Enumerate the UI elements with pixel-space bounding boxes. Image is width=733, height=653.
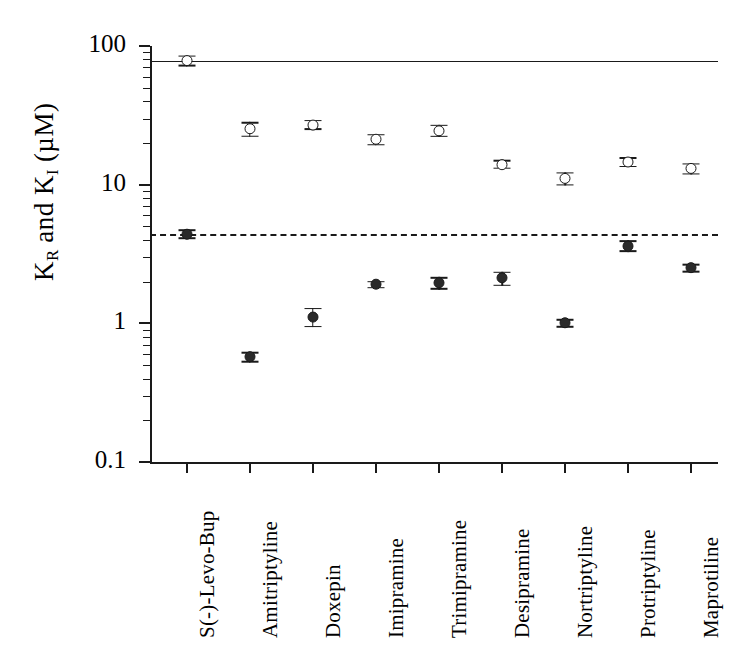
data-point-kr xyxy=(430,125,448,137)
error-bar-cap-upper xyxy=(304,308,321,310)
y-tick-minor xyxy=(143,52,150,53)
y-tick-minor xyxy=(143,67,150,68)
y-tick-label: 0.1 xyxy=(95,446,126,474)
open-circle-marker xyxy=(181,55,192,66)
y-tick-minor xyxy=(143,345,150,346)
y-tick-minor xyxy=(143,119,150,120)
y-tick-minor xyxy=(143,77,150,78)
plot-area: 0.1110100 xyxy=(150,46,718,462)
open-circle-marker xyxy=(560,173,571,184)
data-point-kr xyxy=(178,56,196,67)
x-axis-line xyxy=(150,462,718,464)
y-tick-minor xyxy=(143,379,150,380)
data-point-ki xyxy=(241,352,259,363)
data-point-kr xyxy=(241,122,259,137)
y-tick-label: 10 xyxy=(101,169,126,197)
figure-root: KR and KI (µM) 0.1110100 S(-)-Levo-BupAm… xyxy=(0,0,733,653)
x-axis-label-6: Nortriptyline xyxy=(573,526,598,638)
data-point-ki xyxy=(430,277,448,289)
open-circle-marker xyxy=(623,157,634,168)
y-tick-minor xyxy=(143,257,150,258)
data-point-ki xyxy=(682,264,700,273)
x-tick xyxy=(375,462,377,473)
error-bar-cap-lower xyxy=(241,135,258,137)
y-tick-minor xyxy=(143,191,150,192)
open-circle-marker xyxy=(686,163,697,174)
y-tick-minor xyxy=(143,337,150,338)
y-tick-major: 10 xyxy=(139,184,150,186)
data-point-kr xyxy=(556,172,574,185)
y-axis-label-sub-i: I xyxy=(43,169,62,175)
filled-circle-marker xyxy=(560,318,571,329)
y-axis-label-units: (µM) xyxy=(29,103,59,170)
data-point-kr xyxy=(493,160,511,169)
error-bar-cap-lower xyxy=(494,284,511,286)
y-tick-minor xyxy=(143,198,150,199)
y-axis-label-k1: K xyxy=(29,261,59,281)
open-circle-marker xyxy=(434,125,445,136)
data-point-kr xyxy=(682,163,700,174)
y-tick-minor xyxy=(143,330,150,331)
y-tick-minor xyxy=(143,226,150,227)
data-point-kr xyxy=(304,120,322,130)
x-tick xyxy=(249,462,251,473)
y-tick-minor xyxy=(143,365,150,366)
data-point-ki xyxy=(178,229,196,239)
y-tick-minor xyxy=(143,354,150,355)
solid-reference-line xyxy=(150,61,718,62)
x-axis-label-4: Trimipramine xyxy=(447,520,472,638)
data-point-ki xyxy=(304,308,322,328)
y-axis-label-k2: K xyxy=(29,175,59,195)
y-tick-major: 1 xyxy=(139,322,150,324)
x-tick xyxy=(438,462,440,473)
y-tick-minor xyxy=(143,88,150,89)
x-tick xyxy=(627,462,629,473)
y-tick-major: 100 xyxy=(139,45,150,47)
y-axis-label-and: and xyxy=(29,195,59,250)
data-point-kr xyxy=(367,134,385,146)
x-tick xyxy=(690,462,692,473)
x-axis-label-8: Maprotiline xyxy=(699,537,724,638)
filled-circle-marker xyxy=(686,262,697,273)
x-axis-label-7: Protriptyline xyxy=(636,529,661,638)
y-tick-minor xyxy=(143,59,150,60)
y-tick-minor xyxy=(143,143,150,144)
filled-circle-marker xyxy=(244,351,255,362)
x-tick xyxy=(186,462,188,473)
filled-circle-marker xyxy=(623,240,634,251)
filled-circle-marker xyxy=(370,279,381,290)
open-circle-marker xyxy=(370,134,381,145)
error-bar-cap-lower xyxy=(557,184,574,186)
open-circle-marker xyxy=(244,124,255,135)
open-circle-marker xyxy=(307,119,318,130)
y-axis-label: KR and KI (µM) xyxy=(29,42,63,342)
y-tick-minor xyxy=(143,215,150,216)
y-tick-minor xyxy=(143,206,150,207)
y-axis-label-sub-r: R xyxy=(43,250,62,261)
y-axis-line xyxy=(150,46,152,463)
data-point-ki xyxy=(556,319,574,327)
error-bar-cap-lower xyxy=(304,326,321,328)
y-tick-minor xyxy=(143,240,150,241)
data-point-ki xyxy=(367,281,385,289)
data-point-ki xyxy=(619,240,637,252)
x-axis-label-2: Doxepin xyxy=(321,564,346,638)
filled-circle-marker xyxy=(434,277,445,288)
x-axis-label-3: Imipramine xyxy=(384,538,409,638)
x-axis-label-0: S(-)-Levo-Bup xyxy=(195,511,220,638)
x-axis-label-1: Amitriptyline xyxy=(258,521,283,638)
y-tick-minor xyxy=(143,420,150,421)
x-tick xyxy=(312,462,314,473)
x-axis-label-5: Desipramine xyxy=(510,529,535,639)
filled-circle-marker xyxy=(497,273,508,284)
y-tick-label: 100 xyxy=(89,30,127,58)
x-tick xyxy=(564,462,566,473)
y-tick-minor xyxy=(143,396,150,397)
data-point-ki xyxy=(493,271,511,285)
data-point-kr xyxy=(619,157,637,167)
y-tick-minor xyxy=(143,282,150,283)
y-tick-minor xyxy=(143,101,150,102)
dashed-reference-line xyxy=(150,234,718,236)
x-tick xyxy=(501,462,503,473)
open-circle-marker xyxy=(497,159,508,170)
